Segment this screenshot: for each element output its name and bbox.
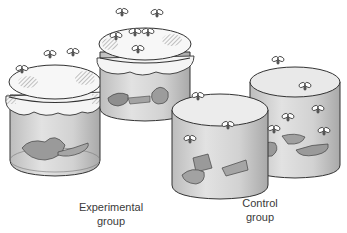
figure: Experimental group Control group: [0, 0, 347, 233]
experimental-group-label: Experimental group: [56, 200, 166, 228]
experimental-label-line2: group: [56, 214, 166, 228]
experimental-jar-left: [6, 65, 104, 176]
control-label-line1: Control: [220, 196, 300, 210]
control-label-line2: group: [220, 210, 300, 224]
control-jar-left: [172, 94, 268, 199]
control-group-label: Control group: [220, 196, 300, 224]
experimental-label-line1: Experimental: [56, 200, 166, 214]
